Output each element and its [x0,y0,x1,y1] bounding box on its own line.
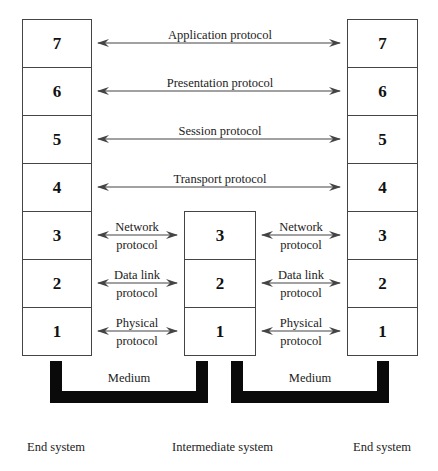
label-physical-left-1: Physical [104,317,170,330]
label-network-right-2: protocol [268,239,334,252]
left-layer-2: 2 [22,259,92,308]
label-physical-right-1: Physical [268,317,334,330]
left-layer-7: 7 [22,19,92,68]
mid-layer-2: 2 [184,259,256,308]
left-layer-1: 1 [22,307,92,356]
caption-left-end-system: End system [27,440,85,455]
right-layer-3: 3 [347,211,418,260]
label-physical-right-2: protocol [268,335,334,348]
right-layer-7: 7 [347,19,418,68]
right-layer-2: 2 [347,259,418,308]
left-layer-3: 3 [22,211,92,260]
label-transport-protocol: Transport protocol [110,173,330,186]
label-physical-left-2: protocol [104,335,170,348]
label-session-protocol: Session protocol [110,125,330,138]
right-layer-5: 5 [347,115,418,164]
label-datalink-right-1: Data link [268,269,334,282]
right-layer-1: 1 [347,307,418,356]
caption-intermediate-system: Intermediate system [172,440,273,455]
label-datalink-left-2: protocol [104,287,170,300]
label-presentation-protocol: Presentation protocol [110,77,330,90]
label-datalink-right-2: protocol [268,287,334,300]
label-network-left-1: Network [104,221,170,234]
right-layer-4: 4 [347,163,418,212]
label-application-protocol: Application protocol [110,29,330,42]
label-network-right-1: Network [268,221,334,234]
label-medium-left: Medium [90,372,168,385]
label-medium-right: Medium [271,372,349,385]
label-datalink-left-1: Data link [104,269,170,282]
left-layer-5: 5 [22,115,92,164]
label-network-left-2: protocol [104,239,170,252]
caption-right-end-system: End system [353,440,411,455]
mid-layer-3: 3 [184,211,256,260]
mid-layer-1: 1 [184,307,256,356]
right-layer-6: 6 [347,67,418,116]
left-layer-4: 4 [22,163,92,212]
left-layer-6: 6 [22,67,92,116]
